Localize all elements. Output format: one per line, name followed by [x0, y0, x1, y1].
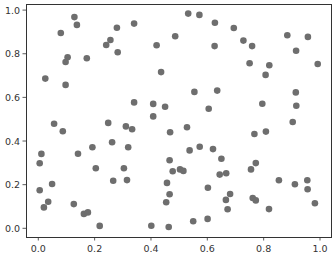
scatter-point [276, 177, 283, 184]
scatter-point [74, 22, 81, 29]
scatter-point [248, 166, 255, 173]
scatter-point [251, 131, 258, 138]
scatter-point [124, 177, 131, 184]
scatter-point [211, 43, 218, 50]
scatter-point [166, 191, 173, 198]
y-tick-label: 0.6 [5, 92, 20, 103]
scatter-point [259, 100, 266, 107]
scatter-point [131, 99, 138, 106]
scatter-point [71, 14, 78, 21]
scatter-point [185, 10, 192, 17]
scatter-point [89, 144, 96, 151]
scatter-point [38, 151, 45, 158]
scatter-point [164, 180, 171, 187]
scatter-point [49, 181, 56, 188]
scatter-point [266, 206, 273, 213]
scatter-point [84, 55, 91, 62]
scatter-point [165, 224, 172, 231]
scatter-point [223, 170, 230, 177]
plot-background [0, 0, 334, 259]
scatter-point [262, 72, 269, 79]
scatter-point [109, 139, 116, 146]
scatter-point [45, 198, 52, 205]
scatter-point [293, 47, 300, 54]
scatter-point [150, 113, 157, 120]
x-tick-label: 0.8 [256, 243, 271, 254]
scatter-point [289, 119, 296, 126]
scatter-point [204, 216, 211, 223]
scatter-point [169, 168, 176, 175]
scatter-point [114, 25, 121, 32]
scatter-point [51, 121, 58, 128]
scatter-point [190, 218, 197, 225]
scatter-point [180, 168, 187, 175]
scatter-point [36, 160, 43, 167]
scatter-point [312, 200, 319, 207]
scatter-point [75, 150, 82, 157]
scatter-point [114, 49, 121, 56]
x-tick-label: 0.0 [31, 243, 46, 254]
scatter-point [224, 206, 231, 213]
scatter-point [196, 12, 203, 19]
scatter-point [186, 147, 193, 154]
y-tick-label: 0.8 [5, 48, 20, 59]
scatter-point [62, 82, 69, 89]
y-tick-label: 0.2 [5, 179, 20, 190]
scatter-point [266, 62, 273, 69]
scatter-point [103, 42, 110, 49]
scatter-point [158, 69, 165, 76]
scatter-point [131, 20, 138, 27]
scatter-point [93, 165, 100, 172]
scatter-point [227, 191, 234, 198]
scatter-point [58, 30, 65, 37]
scatter-point [210, 146, 217, 153]
scatter-point [223, 197, 230, 204]
scatter-point [231, 25, 238, 32]
scatter-point [163, 199, 170, 206]
scatter-point [293, 89, 300, 96]
scatter-point [196, 143, 203, 150]
scatter-point [292, 181, 299, 188]
y-tick-label: 0.0 [5, 223, 20, 234]
scatter-point [253, 197, 260, 204]
scatter-point [36, 187, 43, 194]
scatter-point [304, 177, 311, 184]
scatter-point [62, 59, 69, 66]
scatter-point [85, 209, 92, 216]
scatter-point [150, 101, 157, 108]
scatter-point [125, 144, 132, 151]
scatter-point [263, 128, 270, 135]
scatter-point [314, 61, 321, 68]
scatter-point [214, 87, 221, 94]
scatter-point [42, 75, 49, 82]
scatter-point [148, 222, 155, 229]
x-tick-label: 1.0 [312, 243, 327, 254]
scatter-point [212, 20, 219, 27]
scatter-point [205, 184, 212, 191]
scatter-point [246, 60, 253, 67]
y-tick-label: 0.4 [5, 136, 20, 147]
scatter-point [172, 33, 179, 40]
scatter-point [129, 126, 136, 133]
scatter-point [153, 42, 160, 49]
scatter-point [218, 155, 225, 162]
scatter-point [105, 120, 112, 127]
scatter-point [123, 123, 130, 130]
scatter-point [166, 157, 173, 164]
x-tick-label: 0.6 [200, 243, 215, 254]
x-tick-label: 0.2 [87, 243, 102, 254]
x-tick-label: 0.4 [143, 243, 158, 254]
scatter-point [305, 34, 312, 41]
scatter-point [162, 104, 169, 111]
scatter-point [184, 124, 191, 131]
scatter-chart: 0.00.20.40.60.81.0 0.00.20.40.60.81.0 [0, 0, 334, 259]
scatter-point [284, 32, 291, 39]
scatter-point [249, 43, 256, 50]
scatter-point [205, 105, 212, 112]
scatter-point [240, 37, 247, 44]
scatter-point [41, 204, 48, 211]
scatter-point [71, 201, 78, 208]
scatter-point [191, 89, 198, 96]
scatter-point [304, 186, 311, 193]
scatter-point [216, 171, 223, 178]
